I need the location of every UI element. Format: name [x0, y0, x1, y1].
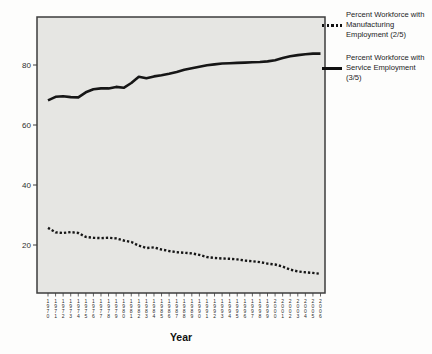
y-tick-label: 20 — [22, 241, 31, 250]
x-tick-label: 1982 — [137, 298, 140, 319]
x-tick-label: 2000 — [274, 298, 277, 319]
x-tick-label: 1994 — [228, 298, 231, 319]
y-tick-label: 80 — [22, 61, 31, 70]
legend: Percent Workforce with Manufacturing Emp… — [322, 10, 430, 96]
legend-entry-service: Percent Workforce with Service Employmen… — [322, 53, 430, 83]
chart-figure: 20406080 1970197119721973197419751976197… — [0, 0, 432, 354]
x-tick-label: 1992 — [213, 298, 216, 319]
x-tick-label: 1990 — [198, 298, 201, 319]
x-tick-label: 1987 — [175, 298, 178, 319]
dotted-line-swatch — [322, 24, 342, 27]
x-tick-label: 1985 — [160, 298, 163, 319]
x-axis-title: Year — [37, 331, 325, 343]
x-tick-label: 1993 — [221, 298, 224, 319]
x-tick-label: 1974 — [77, 298, 80, 319]
x-tick-label: 2005 — [312, 298, 315, 319]
x-tick-label: 1981 — [130, 298, 133, 319]
y-tick-label: 60 — [22, 121, 31, 130]
x-axis: 1970197119721973197419751976197719781979… — [47, 293, 323, 319]
x-tick-label: 1996 — [243, 298, 246, 319]
y-tick-label: 40 — [22, 181, 31, 190]
x-tick-label: 1980 — [122, 298, 125, 319]
legend-entry-manufacturing: Percent Workforce with Manufacturing Emp… — [322, 10, 430, 40]
x-tick-label: 1971 — [54, 298, 57, 319]
x-tick-label: 2004 — [304, 298, 307, 319]
x-tick-label: 1978 — [107, 298, 110, 319]
x-tick-label: 1997 — [251, 298, 254, 319]
x-tick-label: 1989 — [190, 298, 193, 319]
x-tick-label: 1995 — [236, 298, 239, 319]
x-tick-label: 2001 — [281, 298, 284, 319]
x-tick-label: 1979 — [115, 298, 118, 319]
solid-line-swatch — [322, 67, 342, 70]
y-axis: 20406080 — [22, 61, 37, 250]
x-tick-label: 1972 — [62, 298, 65, 319]
x-tick-label: 1998 — [259, 298, 262, 319]
x-tick-label: 1988 — [183, 298, 186, 319]
x-tick-label: 2003 — [296, 298, 299, 319]
x-tick-label: 1986 — [168, 298, 171, 319]
x-tick-label: 1984 — [153, 298, 156, 319]
x-tick-label: 1975 — [84, 298, 87, 319]
x-tick-label: 1973 — [69, 298, 72, 319]
x-tick-label: 1977 — [100, 298, 103, 319]
x-tick-label: 1991 — [206, 298, 209, 319]
x-tick-label: 2002 — [289, 298, 292, 319]
x-tick-label: 1983 — [145, 298, 148, 319]
x-tick-label: 1999 — [266, 298, 269, 319]
x-tick-label: 2006 — [319, 298, 322, 319]
legend-label-manufacturing: Percent Workforce with Manufacturing Emp… — [346, 10, 430, 40]
x-tick-label: 1970 — [47, 298, 50, 319]
x-tick-label: 1976 — [92, 298, 95, 319]
legend-label-service: Percent Workforce with Service Employmen… — [346, 53, 430, 83]
